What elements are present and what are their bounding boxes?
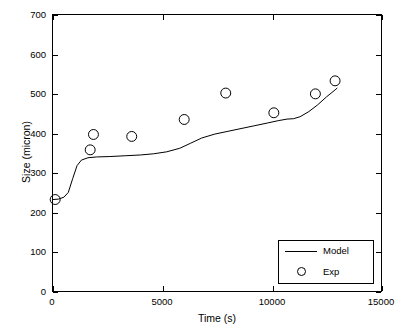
ytick-right-600	[376, 55, 381, 56]
legend-circle-sample	[285, 262, 317, 284]
ytick-right-100	[376, 252, 381, 253]
x-axis-label: Time (s)	[52, 312, 382, 324]
exp-marker	[88, 130, 98, 140]
legend-label-model: Model	[323, 245, 349, 256]
yticklabel-0: 0	[22, 286, 46, 297]
yticklabel-600: 600	[22, 49, 46, 60]
ytick-right-200	[376, 213, 381, 214]
ytick-right-400	[376, 134, 381, 135]
xticklabel-0: 0	[49, 296, 54, 307]
ytick-700	[53, 15, 58, 16]
xtick-15000	[382, 286, 383, 291]
ytick-right-700	[376, 15, 381, 16]
exp-marker	[221, 88, 231, 98]
xticklabel-5000: 5000	[151, 296, 172, 307]
xticklabel-10000: 10000	[259, 296, 285, 307]
exp-marker	[179, 115, 189, 125]
plot-area: Model Exp	[52, 14, 382, 292]
exp-marker	[310, 89, 320, 99]
xtick-5000	[163, 286, 164, 291]
ytick-right-300	[376, 173, 381, 174]
ytick-0	[53, 292, 58, 293]
legend-row-exp: Exp	[279, 262, 373, 284]
yticklabel-700: 700	[22, 9, 46, 20]
legend-line-sample	[285, 241, 317, 263]
exp-marker	[85, 145, 95, 155]
ytick-300	[53, 173, 58, 174]
y-axis-label: Size (micron)	[20, 72, 32, 232]
figure: Model Exp 0 5000 10000 15000 0 100 200 3…	[0, 0, 416, 335]
ytick-100	[53, 252, 58, 253]
ytick-right-500	[376, 94, 381, 95]
xtick-top-10000	[273, 15, 274, 20]
xtick-10000	[273, 286, 274, 291]
ytick-400	[53, 134, 58, 135]
legend-row-model: Model	[279, 241, 373, 263]
exp-marker	[127, 131, 137, 141]
legend-label-exp: Exp	[323, 266, 339, 277]
ytick-200	[53, 213, 58, 214]
yticklabel-100: 100	[22, 246, 46, 257]
ytick-600	[53, 55, 58, 56]
xticklabel-15000: 15000	[368, 296, 394, 307]
exp-scatter-series	[50, 76, 340, 205]
legend: Model Exp	[278, 240, 374, 284]
xtick-0	[53, 286, 54, 291]
xtick-top-5000	[163, 15, 164, 20]
model-line-series	[53, 88, 337, 200]
xtick-top-15000	[382, 15, 383, 20]
ytick-right-0	[376, 292, 381, 293]
exp-marker	[269, 108, 279, 118]
exp-marker	[330, 76, 340, 86]
ytick-500	[53, 94, 58, 95]
